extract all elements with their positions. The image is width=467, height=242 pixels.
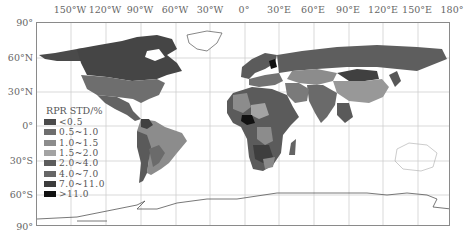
lat-label-30n: 30°N bbox=[8, 86, 33, 97]
lon-label-0: 0° bbox=[239, 4, 250, 15]
legend-swatch bbox=[44, 129, 56, 135]
legend-item: 7.0~11.0 bbox=[44, 179, 105, 189]
australia bbox=[395, 143, 437, 171]
legend-swatch bbox=[44, 181, 56, 187]
legend-swatch bbox=[44, 150, 56, 156]
lon-label-30w: 30°W bbox=[197, 4, 224, 15]
lon-label-60e: 60°E bbox=[301, 4, 325, 15]
legend-label: 1.5~2.0 bbox=[59, 148, 99, 158]
south-america bbox=[137, 119, 187, 183]
lon-label-180: 180° bbox=[441, 4, 464, 15]
lat-label-30s: 30°S bbox=[10, 155, 33, 166]
asia bbox=[277, 45, 447, 123]
lat-label-60n: 60°N bbox=[8, 52, 33, 63]
legend-label: 7.0~11.0 bbox=[59, 179, 105, 189]
legend-item: >11.0 bbox=[44, 189, 105, 199]
legend-swatch bbox=[44, 191, 56, 197]
legend-label: 0.5~1.0 bbox=[59, 127, 99, 137]
lon-label-120e: 120°E bbox=[368, 4, 398, 15]
legend-label: 1.0~1.5 bbox=[59, 138, 99, 148]
lon-label-150w: 150°W bbox=[54, 4, 87, 15]
legend-swatch bbox=[44, 171, 56, 177]
africa bbox=[227, 87, 299, 171]
lon-label-150e: 150°E bbox=[402, 4, 432, 15]
legend-swatch bbox=[44, 119, 56, 125]
lon-label-120w: 120°W bbox=[89, 4, 122, 15]
lat-label-60s: 60°S bbox=[10, 189, 33, 200]
lon-label-30e: 30°E bbox=[267, 4, 291, 15]
legend-item: 2.0~4.0 bbox=[44, 158, 105, 168]
legend: RPR STD/% <0.5 0.5~1.0 1.0~1.5 1.5~2.0 2… bbox=[44, 105, 105, 199]
legend-label: 4.0~7.0 bbox=[59, 169, 99, 179]
lat-label-90s: 90° bbox=[16, 221, 33, 232]
legend-item: <0.5 bbox=[44, 117, 105, 127]
legend-label: <0.5 bbox=[59, 117, 83, 127]
legend-title: RPR STD/% bbox=[46, 105, 105, 116]
lat-label-0: 0° bbox=[22, 120, 33, 131]
lon-label-60w: 60°W bbox=[162, 4, 189, 15]
legend-swatch bbox=[44, 160, 56, 166]
lon-label-90w: 90°W bbox=[127, 4, 154, 15]
legend-item: 1.5~2.0 bbox=[44, 148, 105, 158]
legend-item: 0.5~1.0 bbox=[44, 127, 105, 137]
legend-label: >11.0 bbox=[59, 189, 89, 199]
legend-swatch bbox=[44, 140, 56, 146]
legend-label: 2.0~4.0 bbox=[59, 158, 99, 168]
lat-label-90n: 90° bbox=[16, 17, 33, 28]
lon-label-90e: 90°E bbox=[336, 4, 360, 15]
legend-item: 1.0~1.5 bbox=[44, 138, 105, 148]
legend-item: 4.0~7.0 bbox=[44, 168, 105, 178]
